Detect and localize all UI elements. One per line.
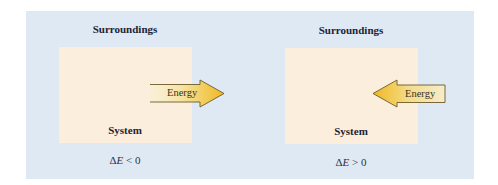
energy-label-right: Energy (405, 88, 435, 100)
relation: < 0 (126, 154, 140, 166)
system-label-left: System (75, 124, 175, 136)
delta-symbol: Δ (335, 156, 342, 168)
delta-e-positive: ΔE > 0 (301, 156, 401, 168)
energy-variable: E (117, 154, 124, 166)
energy-variable: E (343, 156, 350, 168)
relation: > 0 (352, 156, 366, 168)
delta-e-negative: ΔE < 0 (75, 154, 175, 166)
surroundings-label-left: Surroundings (65, 23, 185, 35)
delta-symbol: Δ (109, 154, 116, 166)
energy-label-left: Energy (167, 87, 197, 99)
surroundings-label-right: Surroundings (291, 24, 411, 36)
system-label-right: System (301, 125, 401, 137)
